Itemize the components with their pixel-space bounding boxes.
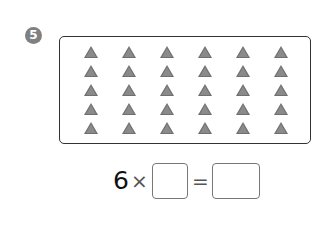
triangle-icon	[160, 84, 174, 96]
triangle-icon	[160, 65, 174, 77]
triangle-icon	[274, 84, 288, 96]
triangle-icon	[84, 103, 98, 115]
triangle-icon	[274, 46, 288, 58]
triangle-icon	[160, 122, 174, 134]
triangle-icon	[198, 84, 212, 96]
triangle-icon	[198, 122, 212, 134]
answer-box-product[interactable]	[212, 163, 260, 199]
equals-sign: =	[192, 163, 209, 199]
triangle-icon	[274, 122, 288, 134]
triangle-icon	[198, 103, 212, 115]
triangle-icon	[236, 84, 250, 96]
triangle-icon	[198, 65, 212, 77]
triangle-icon	[84, 46, 98, 58]
triangle-icon	[122, 46, 136, 58]
triangle-icon	[236, 65, 250, 77]
triangle-icon	[160, 46, 174, 58]
triangle-icon	[274, 103, 288, 115]
triangle-icon	[274, 65, 288, 77]
triangle-icon	[236, 103, 250, 115]
triangle-icon	[122, 103, 136, 115]
multiplicand: 6	[113, 163, 129, 199]
triangle-icon	[122, 84, 136, 96]
triangle-icon	[84, 84, 98, 96]
triangle-icon	[84, 122, 98, 134]
triangle-grid	[60, 37, 310, 143]
triangle-icon	[160, 103, 174, 115]
times-sign: ×	[131, 163, 148, 199]
triangle-icon	[84, 65, 98, 77]
triangle-icon	[198, 46, 212, 58]
triangle-icon	[236, 122, 250, 134]
problem-number-badge: 5	[25, 27, 42, 44]
triangle-array-frame	[59, 36, 311, 144]
triangle-icon	[122, 65, 136, 77]
answer-box-multiplier[interactable]	[152, 163, 188, 199]
triangle-icon	[122, 122, 136, 134]
triangle-icon	[236, 46, 250, 58]
